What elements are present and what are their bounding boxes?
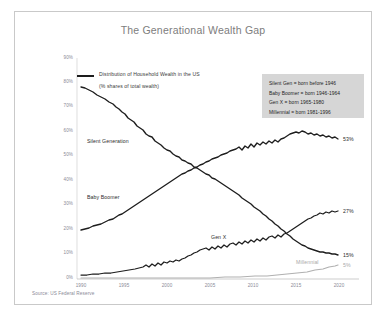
generation-definitions-box: Silent Gen = born before 1946 Baby Boome… [262,74,364,118]
chart-card: The Generational Wealth Gap 90% 80% 70% … [14,11,372,305]
x-tick-2020: 2020 [324,283,354,288]
source-note: Source: US Federal Reserve [32,291,95,296]
note-gen-x: Gen X = born 1965-1980 [269,98,364,108]
end-label-silent-generation: 15% [343,252,354,258]
end-label-gen-x: 27% [343,208,354,214]
y-tick-0: 0% [51,275,73,280]
x-tick-2010: 2010 [238,283,268,288]
x-tick-1990: 1990 [66,283,96,288]
legend-caption-primary: Distribution of Household Wealth in the … [99,71,200,77]
x-tick-2005: 2005 [195,283,225,288]
y-tick-50: 50% [51,152,73,157]
x-tick-2000: 2000 [152,283,182,288]
y-tick-40: 40% [51,177,73,182]
y-tick-90: 90% [51,55,73,60]
y-tick-30: 30% [51,201,73,206]
y-tick-10: 10% [51,250,73,255]
note-millennial: Millennial = born 1981-1996 [269,108,364,118]
y-tick-20: 20% [51,226,73,231]
y-tick-80: 80% [51,79,73,84]
legend-caption-secondary: (% shares of total wealth) [99,83,159,89]
note-baby-boomer: Baby Boomer = born 1946-1964 [269,89,364,99]
series-line-baby-boomer [81,131,338,230]
series-label-gen-x: Gen X [211,234,226,240]
end-label-millennial: 5% [343,262,351,268]
y-tick-60: 60% [51,128,73,133]
series-label-silent-generation: Silent Generation [87,138,129,144]
x-tick-1995: 1995 [109,283,139,288]
series-label-baby-boomer: Baby Boomer [87,194,120,200]
end-label-baby-boomer: 53% [343,136,354,142]
legend-line-swatch [77,75,94,77]
y-tick-70: 70% [51,103,73,108]
note-silent-gen: Silent Gen = born before 1946 [269,79,364,89]
series-label-millennial: Millennial [296,259,319,265]
x-tick-2015: 2015 [281,283,311,288]
